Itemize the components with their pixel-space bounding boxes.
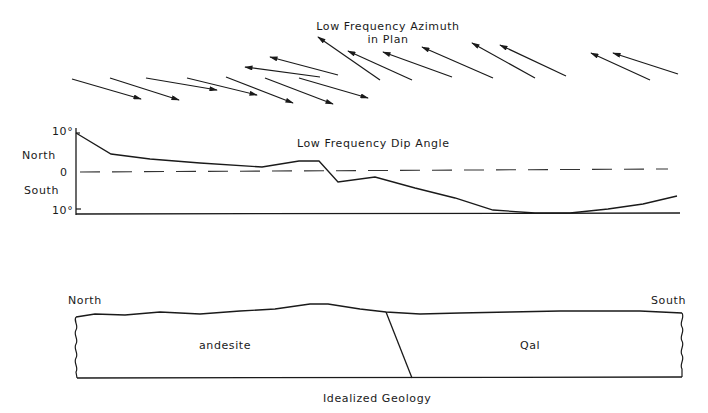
azimuth-arrow-north [270, 57, 338, 75]
azimuth-arrow-south [146, 78, 217, 90]
azimuth-arrows [72, 37, 678, 104]
diagram-canvas [0, 0, 708, 413]
azimuth-arrow-north [245, 67, 320, 77]
fault-contact-line [386, 312, 412, 378]
azimuth-arrow-north [348, 51, 412, 80]
azimuth-arrow-south [72, 79, 141, 99]
dip-chart [76, 128, 680, 215]
right-break-edge [681, 313, 683, 377]
zero-dashed-line [80, 169, 668, 172]
azimuth-arrow-north [613, 53, 678, 74]
azimuth-arrow-north [500, 45, 566, 76]
geology-section [75, 304, 683, 378]
azimuth-arrow-north [318, 37, 380, 80]
ground-surface-line [76, 304, 682, 317]
azimuth-arrow-north [422, 47, 493, 78]
section-bottom-line [77, 377, 682, 378]
left-break-edge [75, 317, 77, 378]
azimuth-arrow-north [591, 53, 650, 80]
x-baseline [76, 213, 680, 214]
dip-profile-line [76, 133, 677, 213]
azimuth-arrow-south [265, 78, 333, 104]
